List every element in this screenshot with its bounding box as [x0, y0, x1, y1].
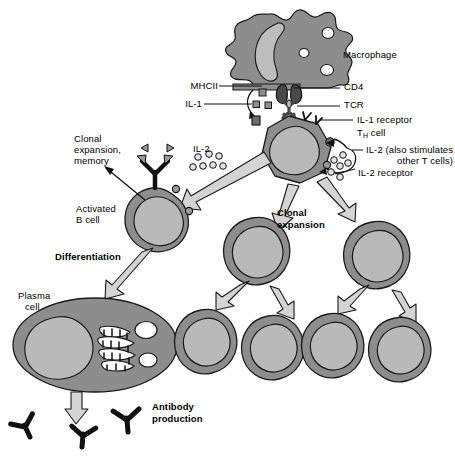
block-arrow-icon: [216, 281, 249, 310]
label-macrophage: Macrophage: [343, 49, 397, 60]
il2-molecules-right-icon: [328, 152, 352, 181]
label-il2-stimulates-line1: IL-2 (also stimulates: [366, 144, 453, 155]
block-arrow-icon: [338, 285, 369, 314]
label-il1-receptor: IL-1 receptor: [357, 114, 412, 125]
label-il1: IL-1: [166, 98, 202, 109]
daughter-cell-icon: [344, 221, 410, 288]
antibody-y-icon: [113, 409, 141, 433]
label-th-cell: TH cell: [357, 127, 385, 141]
label-tcr: TCR: [344, 99, 364, 110]
activated-b-cell-icon: [125, 188, 189, 252]
antibody-y-icon: [70, 426, 96, 448]
label-antibody-production-line1: Antibody: [152, 401, 194, 412]
label-clonal-expansion-memory-line1: Clonal: [74, 133, 102, 144]
antigen-triangle-icon: [141, 144, 174, 152]
label-clonal-expansion-memory-line2: expansion,: [74, 144, 121, 155]
label-il2-stimulates-line2: other T cells): [366, 155, 453, 166]
block-arrow-icon: [317, 177, 356, 222]
label-activated-b-cell-line1: Activated: [76, 203, 116, 214]
label-plasma-cell-line2: cell: [25, 301, 40, 312]
plasma-cell-icon: [13, 298, 177, 392]
daughter-cell-icon: [242, 315, 304, 379]
label-th-cell-suffix: cell: [368, 127, 385, 138]
label-activated-b-cell-line2: B cell: [76, 214, 100, 225]
label-cd4: CD4: [344, 81, 363, 92]
label-il2-left: IL-2: [193, 143, 210, 154]
label-il2-receptor: IL-2 receptor: [358, 167, 413, 178]
diagram-canvas: [0, 0, 455, 456]
antibody-y-icon: [11, 414, 41, 442]
label-differentiation: Differentiation: [55, 251, 121, 262]
label-mhcii: MHCII: [174, 80, 218, 91]
il1-molecules-icon: [253, 89, 272, 109]
macrophage-cell-icon: [226, 10, 353, 88]
block-arrow-icon: [180, 152, 271, 210]
label-plasma-cell-line1: Plasma: [18, 290, 50, 301]
label-clonal-expansion-memory-line3: memory: [74, 155, 109, 166]
label-clonal-expansion-line1: Clonal: [277, 207, 307, 218]
daughter-cell-icon: [175, 309, 237, 373]
t-helper-cell-icon: [262, 116, 331, 183]
block-arrow-icon: [270, 286, 294, 319]
daughter-cell-icon: [369, 317, 431, 381]
label-clonal-expansion-line2: expansion: [277, 219, 325, 230]
antibody-y-icon: [137, 155, 173, 188]
immunology-diagram: Macrophage MHCII CD4 IL-1 TCR IL-1 recep…: [0, 0, 455, 456]
daughter-cell-icon: [302, 313, 364, 377]
block-arrow-icon: [65, 392, 88, 424]
label-antibody-production-line2: production: [152, 413, 203, 424]
